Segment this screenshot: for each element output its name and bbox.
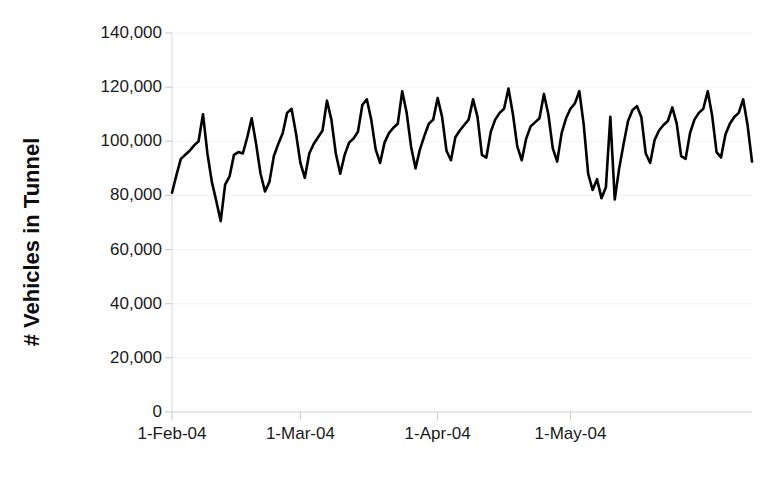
- chart-container: # Vehicles in Tunnel 020,00040,00060,000…: [0, 0, 774, 484]
- plot-area: [0, 0, 774, 484]
- chart-svg: [0, 0, 774, 484]
- gridlines: [172, 33, 752, 412]
- axis-lines: [172, 33, 752, 412]
- data-series-line: [172, 89, 752, 222]
